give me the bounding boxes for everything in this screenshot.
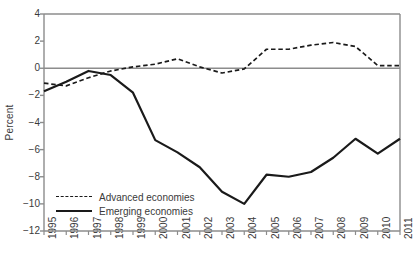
plot-area — [0, 0, 419, 273]
legend-item-advanced-economies: Advanced economies — [56, 190, 195, 204]
legend-item-emerging-economies: Emerging economies — [56, 204, 195, 218]
series-line-emerging-economies — [44, 71, 400, 204]
legend-label-advanced-economies: Advanced economies — [99, 192, 195, 203]
legend-line-solid-icon — [56, 206, 92, 216]
chart-figure: Percent 420−2−4−6−8−10−12 19951996199719… — [0, 0, 419, 273]
legend-label-emerging-economies: Emerging economies — [99, 206, 193, 217]
chart-legend: Advanced economies Emerging economies — [56, 190, 195, 218]
legend-line-dashed-icon — [56, 192, 92, 202]
series-line-advanced-economies — [44, 42, 400, 85]
